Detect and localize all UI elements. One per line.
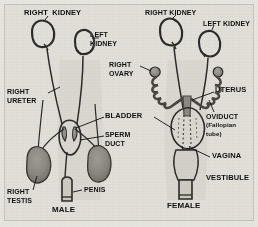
male-left-testis [88,146,112,182]
label-male-left-kidney-line1: LEFT [90,31,108,38]
label-sperm-duct-line1: SPERM [105,131,130,138]
anatomy-diagram-figure: RIGHT KIDNEY LEFT KIDNEY RIGHT URETER BL… [0,0,258,227]
label-right-testis-line2: TESTIS [7,197,32,204]
label-oviduct-line2: (Fallopian [206,122,236,128]
label-right-ovary-line1: RIGHT [109,61,131,68]
label-male-right-kidney: RIGHT KIDNEY [24,9,81,17]
male-spermatic-cord-left [38,100,43,152]
caption-female: FEMALE [167,202,201,210]
male-right-testis [27,147,51,183]
female-uterus-body [183,96,191,116]
label-female-left-kidney: LEFT KIDNEY [203,20,250,27]
caption-male: MALE [52,206,75,214]
female-vulva [179,180,192,199]
label-vagina: VAGINA [212,152,241,160]
label-uterus: UTERUS [215,86,246,94]
label-right-testis-line1: RIGHT [7,188,29,195]
female-right-kidney [160,18,182,45]
label-oviduct-line3: tube) [206,131,222,137]
label-male-left-kidney-line2: KIDNEY [90,40,117,47]
label-right-ovary-line2: OVARY [109,70,134,77]
label-sperm-duct-line2: DUCT [105,140,125,147]
label-vestibule: VESTIBULE [206,174,249,182]
label-penis: PENIS [84,186,106,193]
leader-right-ovary [140,66,151,71]
female-vestibule [174,150,198,180]
male-right-kidney [32,20,54,47]
label-bladder: BLADDER [105,112,142,120]
female-right-ovary [150,67,160,77]
female-left-ovary [213,67,223,77]
label-right-ureter-line2: URETER [7,97,36,104]
label-oviduct-line1: OVIDUCT [206,113,238,120]
label-right-ureter-line1: RIGHT [7,88,29,95]
label-female-right-kidney: RIGHT KIDNEY [145,9,196,16]
